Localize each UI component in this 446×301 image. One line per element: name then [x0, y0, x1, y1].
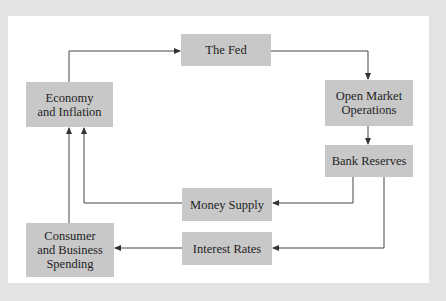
node-label: Operations: [336, 103, 402, 117]
node-label: Consumer: [37, 229, 103, 243]
arrow-economy-to-fed: [69, 51, 180, 82]
node-the-fed: The Fed: [181, 34, 271, 66]
node-bank-reserves: Bank Reserves: [325, 145, 413, 177]
node-label: The Fed: [205, 43, 246, 57]
node-label: Spending: [37, 257, 103, 271]
arrow-fed-to-omo: [271, 51, 368, 79]
node-money-supply: Money Supply: [182, 188, 272, 221]
node-interest-rates: Interest Rates: [182, 232, 272, 265]
node-label: Economy: [37, 91, 101, 105]
node-label: Money Supply: [190, 198, 264, 212]
node-label: Open Market: [336, 89, 402, 103]
node-economy-inflation: Economy and Inflation: [26, 82, 113, 127]
arrow-money-to-economy: [84, 128, 182, 203]
node-label: and Inflation: [37, 105, 101, 119]
arrow-reserves-to-money: [273, 177, 353, 203]
node-open-market-operations: Open Market Operations: [325, 80, 413, 126]
node-label: and Business: [37, 243, 103, 257]
node-consumer-business-spending: Consumer and Business Spending: [26, 223, 114, 277]
node-label: Bank Reserves: [332, 154, 407, 168]
arrow-reserves-to-rates: [273, 177, 384, 248]
node-label: Interest Rates: [193, 242, 261, 256]
